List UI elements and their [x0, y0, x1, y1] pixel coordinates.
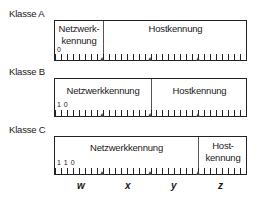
bit-tick: [127, 168, 128, 174]
bit-tick: [228, 168, 229, 174]
bit-tick: [97, 54, 98, 60]
bit-tick: [192, 110, 193, 116]
bit-tick: [121, 168, 122, 174]
bit-tick: [133, 168, 134, 174]
bit-tick: [55, 168, 56, 174]
bit-tick: [79, 110, 80, 116]
bit-tick: [61, 168, 62, 174]
bit-tick: [73, 110, 74, 116]
bit-tick: [204, 54, 205, 60]
bit-tick: [216, 54, 217, 60]
bit-tick: [168, 54, 169, 60]
bit-tick: [115, 168, 116, 174]
bit-tick: [162, 168, 163, 174]
bit-tick: [91, 110, 92, 116]
bit-tick: [186, 168, 187, 174]
octet-marker-icon: [148, 113, 152, 117]
bit-tick: [127, 110, 128, 116]
octet-marker-icon: [100, 113, 104, 117]
bit-tick: [97, 110, 98, 116]
bit-tick: [168, 168, 169, 174]
class-b-label: Klasse B: [9, 66, 45, 77]
bit-tick: [174, 110, 175, 116]
bit-tick: [240, 110, 241, 116]
class-b-bit-prefix: 1 0: [57, 101, 68, 108]
bit-tick: [61, 54, 62, 60]
bit-tick: [192, 54, 193, 60]
bit-tick: [109, 54, 110, 60]
bit-tick: [91, 54, 92, 60]
bit-tick: [246, 54, 247, 60]
class-a-bit-prefix: 0: [57, 46, 61, 53]
class-a-host-field: Hostkennung: [103, 23, 248, 35]
octet-marker-icon: [196, 57, 200, 61]
bit-tick: [246, 168, 247, 174]
class-a-network-field: Netzwerk- kennung: [55, 23, 103, 47]
bit-tick: [222, 54, 223, 60]
bit-tick: [216, 168, 217, 174]
bit-tick: [234, 110, 235, 116]
octet-label-z: z: [218, 180, 223, 191]
bit-tick: [162, 54, 163, 60]
bit-tick: [210, 110, 211, 116]
bit-tick: [85, 110, 86, 116]
bit-tick: [180, 110, 181, 116]
bit-tick: [85, 168, 86, 174]
bit-tick: [210, 168, 211, 174]
bit-tick: [145, 168, 146, 174]
class-b-network-field: Netzwerkkennung: [55, 85, 151, 97]
octet-label-w: w: [77, 180, 85, 191]
bit-tick: [67, 168, 68, 174]
octet-marker-icon: [196, 171, 200, 175]
class-c-host-field: Host- kennung: [198, 140, 248, 164]
bit-tick: [204, 168, 205, 174]
bit-tick: [180, 54, 181, 60]
class-c-network-field: Netzwerkkennung: [55, 142, 198, 154]
bit-tick: [156, 110, 157, 116]
bit-tick: [186, 54, 187, 60]
bit-tick: [73, 168, 74, 174]
octet-marker-icon: [148, 57, 152, 61]
octet-marker-icon: [100, 57, 104, 61]
class-b-address-box: Netzwerkkennung Hostkennung 1 0: [54, 78, 247, 117]
bit-tick: [228, 110, 229, 116]
octet-marker-icon: [196, 113, 200, 117]
bit-tick: [145, 110, 146, 116]
bit-tick: [222, 110, 223, 116]
bit-tick: [55, 54, 56, 60]
bit-tick: [97, 168, 98, 174]
bit-tick: [162, 110, 163, 116]
bit-tick: [174, 168, 175, 174]
bit-tick: [228, 54, 229, 60]
bit-tick: [121, 110, 122, 116]
bit-tick: [91, 168, 92, 174]
bit-tick: [246, 110, 247, 116]
class-c-address-box: Netzwerkkennung Host- kennung 1 1 0: [54, 136, 247, 175]
octet-marker-icon: [100, 171, 104, 175]
bit-tick: [115, 110, 116, 116]
octet-label-x: x: [125, 180, 131, 191]
bit-tick: [210, 54, 211, 60]
bit-tick: [79, 54, 80, 60]
bit-tick: [61, 110, 62, 116]
class-c-label: Klasse C: [9, 124, 45, 135]
bit-tick: [168, 110, 169, 116]
bit-tick: [174, 54, 175, 60]
bit-tick: [156, 54, 157, 60]
class-c-bit-prefix: 1 1 0: [57, 159, 75, 166]
bit-tick: [67, 110, 68, 116]
bit-tick: [192, 168, 193, 174]
bit-tick: [79, 168, 80, 174]
bit-tick: [133, 110, 134, 116]
bit-tick: [73, 54, 74, 60]
bit-tick: [216, 110, 217, 116]
bit-tick: [109, 110, 110, 116]
bit-tick: [234, 54, 235, 60]
bit-tick: [186, 110, 187, 116]
bit-tick: [204, 110, 205, 116]
bit-tick: [145, 54, 146, 60]
bit-tick: [55, 110, 56, 116]
bit-tick: [156, 168, 157, 174]
bit-tick: [180, 168, 181, 174]
bit-tick: [139, 110, 140, 116]
